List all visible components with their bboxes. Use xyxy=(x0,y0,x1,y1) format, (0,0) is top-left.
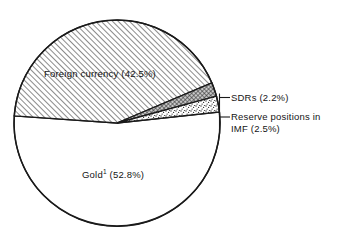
slice-label-foreign-currency: Foreign currency (42.5%) xyxy=(44,68,156,80)
slice-label-gold-text: Gold xyxy=(82,169,103,180)
slice-label-reserve-positions-imf: Reserve positions inIMF (2.5%) xyxy=(231,111,339,135)
slice-label-gold: Gold1 (52.8%) xyxy=(82,169,144,181)
slice-label-reserve-line-1: Reserve positions in xyxy=(231,111,321,122)
slice-label-gold-value: (52.8%) xyxy=(107,169,145,180)
slice-label-reserve-line-2: IMF (2.5%) xyxy=(231,123,280,134)
slice-label-sdrs: SDRs (2.2%) xyxy=(231,92,289,104)
pie-chart-figure: Foreign currency (42.5%) Gold1 (52.8%) S… xyxy=(0,0,341,245)
